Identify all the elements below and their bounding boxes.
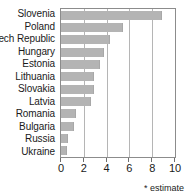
x-axis-tick-label: 6 (126, 162, 132, 175)
x-axis-tick-label: 0 (58, 162, 64, 175)
bar (61, 109, 76, 118)
category-label: Slovenia (0, 8, 57, 21)
category-label: Latvia (0, 96, 57, 109)
bar (61, 122, 74, 131)
bar (61, 72, 94, 81)
bar-series (61, 9, 175, 157)
x-axis-tick-label: 2 (81, 162, 87, 175)
category-label: Hungary (0, 46, 57, 59)
category-label: Ukraine (0, 146, 57, 159)
bar-row (61, 132, 175, 144)
bar-row (61, 145, 175, 157)
x-axis-tick-label: 8 (149, 162, 155, 175)
bar-row (61, 58, 175, 70)
category-label: ech Republic (0, 33, 57, 46)
x-axis-tick-label: 4 (104, 162, 110, 175)
plot-area (60, 8, 176, 158)
category-label: Estonia (0, 58, 57, 71)
bar-row (61, 34, 175, 46)
category-label: Poland (0, 21, 57, 34)
category-label: Slovakia (0, 83, 57, 96)
bar-row (61, 95, 175, 107)
bar-row (61, 120, 175, 132)
bar-row (61, 83, 175, 95)
bar (61, 97, 91, 106)
bar (61, 134, 68, 143)
bar-chart: Slovenia Poland ech Republic Hungary Est… (0, 0, 186, 196)
category-label: Russia (0, 133, 57, 146)
bar (61, 146, 67, 155)
bar-row (61, 71, 175, 83)
category-axis-labels: Slovenia Poland ech Republic Hungary Est… (0, 8, 57, 158)
x-axis-tick-label: 10 (169, 162, 181, 175)
footnote-estimate: * estimate (144, 183, 184, 194)
category-label: Bulgaria (0, 121, 57, 134)
bar-row (61, 46, 175, 58)
bar (61, 48, 104, 57)
x-axis-tick-labels: 0246810 (0, 162, 186, 176)
bar-row (61, 9, 175, 21)
bar (61, 85, 94, 94)
bar (61, 23, 123, 32)
category-label: Romania (0, 108, 57, 121)
category-label: Lithuania (0, 71, 57, 84)
bar-row (61, 21, 175, 33)
bar (61, 60, 100, 69)
bar (61, 11, 162, 20)
bar (61, 35, 110, 44)
bar-row (61, 108, 175, 120)
